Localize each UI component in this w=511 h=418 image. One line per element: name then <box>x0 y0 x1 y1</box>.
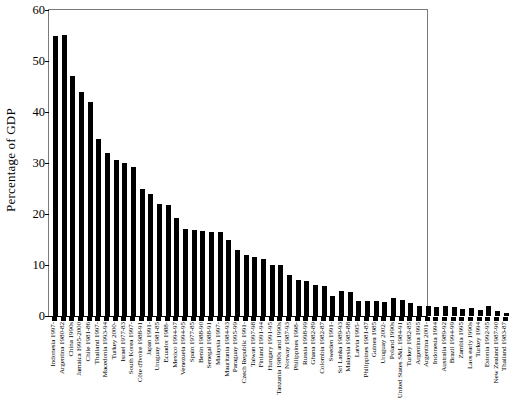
bar <box>287 275 292 316</box>
x-tick <box>206 317 215 321</box>
bar-series <box>49 10 427 316</box>
bar-cell <box>112 10 121 316</box>
bar-cell <box>233 10 242 316</box>
x-tick-label: Latvia 1995- <box>354 322 361 357</box>
x-tick <box>197 317 206 321</box>
x-tick-label: China 1990s <box>68 322 75 357</box>
bar-cell <box>259 10 268 316</box>
bar-cell <box>337 10 346 316</box>
x-tick-label: Ecuador 1988- <box>163 322 170 363</box>
x-tick-label: Guinea 1985 <box>371 322 378 357</box>
x-tick-mark <box>208 317 213 321</box>
x-tick-mark <box>191 317 196 321</box>
bar-cell <box>51 10 60 316</box>
x-tick <box>501 317 510 321</box>
x-tick <box>189 317 198 321</box>
bar <box>114 160 119 316</box>
x-tick-mark <box>442 317 447 321</box>
x-tick-mark <box>312 317 317 321</box>
bar <box>365 301 370 316</box>
x-label-cell: Philippines 1998- <box>293 322 302 418</box>
x-tick-mark <box>321 317 326 321</box>
x-tick <box>484 317 493 321</box>
x-tick-label: Philippines 1998- <box>293 322 300 371</box>
x-tick-mark <box>295 317 300 321</box>
x-tick-mark <box>87 317 92 321</box>
x-tick-label: Estonia 1992-95 <box>484 322 491 367</box>
x-tick-label: Turkey 1982-85 <box>406 322 413 366</box>
bar-cell <box>355 10 364 316</box>
x-tick <box>50 317 59 321</box>
bar-cell <box>216 10 225 316</box>
x-tick-label: Japan 1991- <box>146 322 153 355</box>
bar <box>426 306 431 316</box>
bar <box>278 265 283 316</box>
x-tick <box>414 317 423 321</box>
x-label-cell: Chile 1981-86 <box>85 322 94 418</box>
bar-cell <box>302 10 311 316</box>
x-tick-mark <box>139 317 144 321</box>
x-tick-mark <box>459 317 464 321</box>
bar-cell <box>268 10 277 316</box>
x-tick <box>232 317 241 321</box>
x-tick <box>154 317 163 321</box>
bar-cell <box>407 10 416 316</box>
x-label-cell: Thailand 1983-87 <box>501 322 510 418</box>
bar-cell <box>329 10 338 316</box>
x-tick <box>466 317 475 321</box>
x-tick-mark <box>113 317 118 321</box>
bar-cell <box>485 10 494 316</box>
x-tick-label: Poland 1990s <box>389 322 396 359</box>
bar-cell <box>190 10 199 316</box>
bar-cell <box>389 10 398 316</box>
x-tick <box>59 317 68 321</box>
x-label-cell: Sweden 1991- <box>328 322 337 418</box>
bar <box>348 292 353 316</box>
bar-cell <box>502 10 511 316</box>
bar <box>200 231 205 316</box>
bar-cell <box>103 10 112 316</box>
x-tick-label: Turkey 1994 <box>476 322 483 357</box>
bar-cell <box>77 10 86 316</box>
x-tick-mark <box>373 317 378 321</box>
x-tick <box>76 317 85 321</box>
bar <box>244 255 249 316</box>
x-tick-mark <box>407 317 412 321</box>
x-label-cell: United States S&L 1984-91 <box>397 322 406 418</box>
x-tick-mark <box>104 317 109 321</box>
x-tick <box>371 317 380 321</box>
x-tick-label: Thailand 1983-87 <box>502 322 509 371</box>
bar-cell <box>363 10 372 316</box>
bar <box>166 205 171 316</box>
x-tick-label: Chile 1981-86 <box>85 322 92 362</box>
x-tick <box>171 317 180 321</box>
bar <box>356 301 361 316</box>
x-label-cell: Malaysia 1997- <box>215 322 224 418</box>
bar <box>226 240 231 317</box>
x-label-cell: Guinea 1985 <box>371 322 380 418</box>
bar <box>131 167 136 316</box>
bar-cell <box>68 10 77 316</box>
x-tick <box>319 317 328 321</box>
x-tick <box>223 317 232 321</box>
bar-cell <box>372 10 381 316</box>
x-tick-mark <box>251 317 256 321</box>
x-tick-label: Philippines 1981-87 <box>363 322 370 377</box>
x-label-cell: Brazil 1994-99 <box>449 322 458 418</box>
x-tick-label: Argentina 1980-82 <box>59 322 66 374</box>
x-tick <box>119 317 128 321</box>
x-tick <box>345 317 354 321</box>
bar <box>174 218 179 316</box>
bar-cell <box>129 10 138 316</box>
x-tick <box>492 317 501 321</box>
x-tick <box>310 317 319 321</box>
bar-cell <box>242 10 251 316</box>
x-tick-mark <box>130 317 135 321</box>
bar-cell <box>138 10 147 316</box>
x-label-cell: Indonesia 1994 <box>432 322 441 418</box>
bar <box>105 153 110 316</box>
x-tick-mark <box>485 317 490 321</box>
x-tick-label: Zambia 1995 <box>458 322 465 359</box>
bar-cell <box>224 10 233 316</box>
bar <box>53 36 58 317</box>
